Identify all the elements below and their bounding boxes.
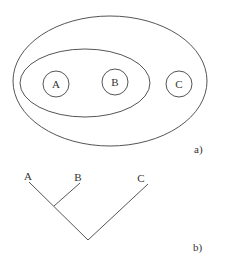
set-label-a: A: [52, 78, 60, 90]
panel-a-nested-sets: A B C a): [13, 16, 207, 156]
panel-b-label: b): [193, 241, 203, 254]
branch-a-root: [29, 182, 88, 240]
leaf-label-b: B: [74, 171, 81, 183]
branch-c-root: [88, 184, 148, 240]
branch-b-node: [54, 183, 80, 206]
set-label-b: B: [111, 76, 118, 88]
leaf-label-c: C: [137, 172, 144, 184]
inner-set-ellipse: [20, 49, 150, 117]
panel-a-label: a): [194, 143, 203, 156]
panel-b-tree: A B C b): [24, 170, 202, 254]
set-label-c: C: [175, 78, 182, 90]
leaf-label-a: A: [24, 170, 32, 182]
diagram-canvas: A B C a) A B C b): [0, 0, 225, 263]
